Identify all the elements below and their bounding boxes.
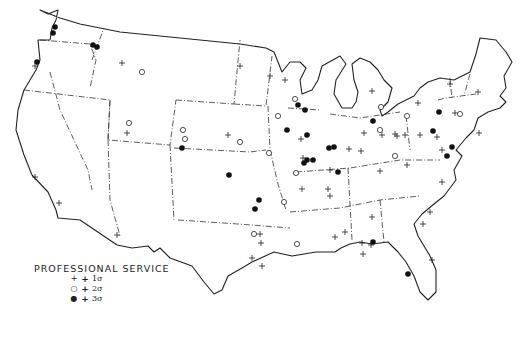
legend: PROFESSIONAL SERVICE + + 1σ ○ + 2σ ● + 3… bbox=[34, 263, 170, 304]
open-circle-marker bbox=[237, 139, 242, 144]
open-circle-marker bbox=[182, 136, 187, 141]
two-sigma-markers bbox=[126, 69, 462, 246]
legend-label: 2σ bbox=[92, 284, 103, 294]
filled-circle-marker bbox=[370, 118, 376, 124]
plus-marker bbox=[369, 214, 375, 220]
open-circle-marker bbox=[180, 127, 185, 132]
open-circle-marker bbox=[251, 231, 256, 236]
open-circle-marker bbox=[275, 113, 280, 118]
plus-icon: + bbox=[80, 274, 90, 284]
legend-item-3sigma: ● + 3σ bbox=[68, 294, 170, 304]
filled-circle-marker bbox=[430, 128, 436, 134]
filled-circle-marker bbox=[179, 145, 185, 151]
plus-marker bbox=[332, 234, 338, 240]
plus-marker bbox=[439, 179, 445, 185]
one-sigma-markers bbox=[32, 60, 482, 269]
plus-icon: + bbox=[68, 274, 80, 284]
plus-marker bbox=[427, 209, 433, 215]
open-circle-marker bbox=[377, 127, 382, 132]
legend-label: 3σ bbox=[92, 294, 103, 304]
plus-marker bbox=[124, 130, 130, 136]
filled-circle-marker bbox=[302, 107, 308, 113]
plus-marker bbox=[114, 232, 120, 238]
plus-marker bbox=[267, 73, 273, 79]
map-markers bbox=[32, 24, 482, 277]
filled-circle-marker bbox=[370, 239, 376, 245]
filled-circle-marker bbox=[436, 109, 442, 115]
open-circle-marker bbox=[293, 170, 298, 175]
plus-icon: + bbox=[80, 284, 90, 294]
plus-marker bbox=[358, 148, 364, 154]
plus-marker bbox=[452, 110, 458, 116]
plus-marker bbox=[404, 162, 410, 168]
plus-marker bbox=[257, 231, 263, 237]
plus-marker bbox=[56, 200, 62, 206]
plus-marker bbox=[32, 174, 38, 180]
plus-marker bbox=[360, 251, 366, 257]
plus-marker bbox=[402, 132, 408, 138]
open-circle-marker bbox=[126, 120, 131, 125]
plus-marker bbox=[417, 132, 423, 138]
filled-circle-marker bbox=[444, 153, 450, 159]
filled-circle-marker bbox=[335, 169, 341, 175]
plus-marker bbox=[299, 186, 305, 192]
plus-marker bbox=[237, 63, 243, 69]
legend-item-2sigma: ○ + 2σ bbox=[68, 284, 170, 294]
plus-marker bbox=[282, 77, 288, 83]
plus-marker bbox=[346, 146, 352, 152]
open-circle-marker bbox=[378, 104, 383, 109]
filled-circle-marker bbox=[405, 271, 411, 277]
open-circle-marker bbox=[266, 150, 271, 155]
country-outline bbox=[16, 10, 512, 300]
legend-title: PROFESSIONAL SERVICE bbox=[34, 263, 170, 274]
plus-marker bbox=[420, 221, 426, 227]
plus-marker bbox=[429, 257, 435, 263]
filled-circle-marker bbox=[304, 132, 310, 138]
filled-circle-marker bbox=[256, 197, 262, 203]
state-borders bbox=[24, 28, 476, 242]
plus-marker bbox=[325, 186, 331, 192]
plus-marker bbox=[327, 167, 333, 173]
plus-marker bbox=[225, 132, 231, 138]
filled-circle-marker bbox=[310, 157, 316, 163]
open-circle-marker bbox=[457, 111, 462, 116]
plus-marker bbox=[439, 147, 445, 153]
filled-circle-marker bbox=[50, 30, 56, 36]
filled-circle-marker bbox=[449, 144, 455, 150]
plus-icon: + bbox=[80, 294, 90, 304]
plus-marker bbox=[259, 263, 265, 269]
filled-circle-marker bbox=[326, 145, 332, 151]
filled-circle-marker bbox=[284, 127, 290, 133]
filled-circle-marker bbox=[226, 172, 232, 178]
open-circle-marker bbox=[139, 69, 144, 74]
plus-marker bbox=[342, 229, 348, 235]
plus-marker bbox=[327, 193, 333, 199]
filled-circle-marker bbox=[331, 144, 337, 150]
plus-marker bbox=[298, 136, 304, 142]
plus-marker bbox=[476, 130, 482, 136]
filled-circle-marker bbox=[252, 206, 258, 212]
plus-marker bbox=[361, 130, 367, 136]
filled-circle-marker bbox=[52, 24, 58, 30]
open-circle-marker bbox=[294, 241, 299, 246]
filled-circle-marker bbox=[34, 59, 40, 65]
plus-marker bbox=[119, 60, 125, 66]
plus-marker bbox=[415, 100, 421, 106]
plus-marker bbox=[249, 255, 255, 261]
plus-marker bbox=[258, 240, 264, 246]
filled-circle-marker bbox=[94, 44, 100, 50]
open-circle-marker bbox=[404, 113, 409, 118]
plus-marker bbox=[377, 168, 383, 174]
filled-circle-icon: ● bbox=[68, 294, 80, 304]
plus-marker bbox=[434, 134, 440, 140]
three-sigma-markers bbox=[34, 24, 455, 277]
plus-marker bbox=[359, 240, 365, 246]
plus-marker bbox=[447, 81, 453, 87]
open-circle-marker bbox=[281, 199, 286, 204]
filled-circle-marker bbox=[301, 160, 307, 166]
filled-circle-marker bbox=[295, 102, 301, 108]
legend-label: 1σ bbox=[92, 274, 103, 284]
open-circle-marker bbox=[392, 153, 397, 158]
open-circle-marker bbox=[292, 96, 297, 101]
open-circle-icon: ○ bbox=[68, 284, 80, 294]
